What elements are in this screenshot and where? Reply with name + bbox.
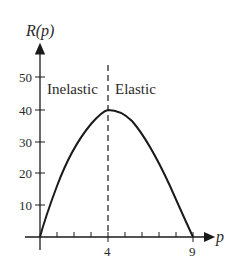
x-axis-title: p xyxy=(215,228,224,246)
inelastic-label: Inelastic xyxy=(47,81,98,97)
y-tick-label-10: 10 xyxy=(19,198,32,213)
y-axis-title: R(p) xyxy=(25,22,54,40)
revenue-curve xyxy=(40,110,193,237)
x-tick-label-9: 9 xyxy=(189,244,196,259)
revenue-chart: 50 40 30 20 10 4 9 R(p) p Inelastic Elas… xyxy=(0,0,240,270)
y-tick-label-20: 20 xyxy=(19,166,32,181)
elastic-label: Elastic xyxy=(115,81,156,97)
y-tick-label-30: 30 xyxy=(19,135,32,150)
y-tick-label-50: 50 xyxy=(19,70,32,85)
x-tick-label-4: 4 xyxy=(104,244,111,259)
y-tick-label-40: 40 xyxy=(19,103,32,118)
